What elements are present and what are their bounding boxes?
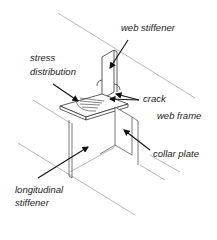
label-web-frame: web frame — [157, 110, 201, 121]
label-distribution: distribution — [30, 66, 76, 77]
label-longitudinal: longitudinal — [15, 184, 63, 195]
longitudinal-stiffener-shape — [69, 120, 72, 178]
label-stress: stress — [30, 52, 55, 63]
longitudinal-stiffener-arrow — [38, 147, 88, 178]
label-web-stiffener: web stiffener — [121, 22, 175, 33]
label-collar-plate: collar plate — [153, 148, 199, 159]
label-crack: crack — [143, 93, 166, 104]
label-stiffener: stiffener — [15, 197, 49, 208]
stress-distribution-arrow — [53, 84, 78, 101]
